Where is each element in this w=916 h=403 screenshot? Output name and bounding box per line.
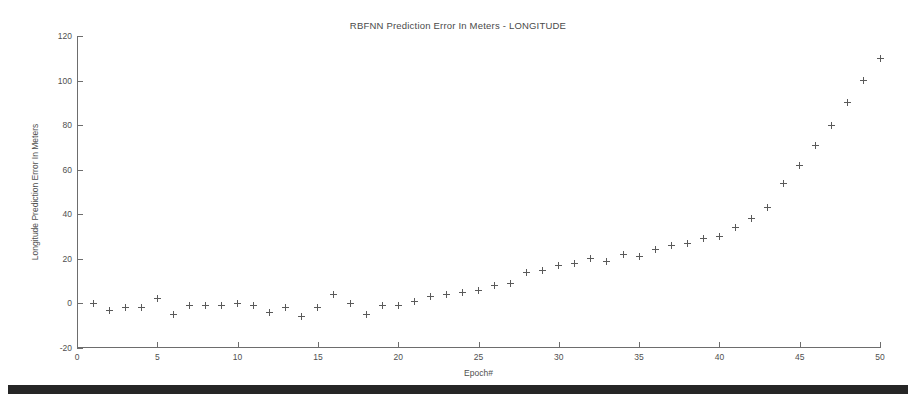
x-tick-mark [559, 342, 560, 348]
y-tick-label: 0 [67, 298, 72, 308]
x-tick-label: 50 [875, 352, 884, 362]
x-tick-mark [479, 342, 480, 348]
y-tick-mark [77, 259, 83, 260]
y-axis-label: Longitude Prediction Error In Meters [28, 36, 42, 348]
x-tick-mark [639, 342, 640, 348]
y-tick-label: 20 [63, 254, 72, 264]
x-tick-label: 40 [715, 352, 724, 362]
y-tick-mark [77, 348, 83, 349]
y-tick-mark [77, 125, 83, 126]
x-tick-mark [318, 342, 319, 348]
chart-title: RBFNN Prediction Error In Meters - LONGI… [0, 20, 916, 31]
y-tick-mark [77, 214, 83, 215]
y-tick-label: 120 [58, 31, 72, 41]
x-tick-mark [157, 342, 158, 348]
y-tick-label: 40 [63, 209, 72, 219]
x-tick-mark [77, 342, 78, 348]
screenshot-page: RBFNN Prediction Error In Meters - LONGI… [0, 0, 916, 403]
x-tick-label: 10 [233, 352, 242, 362]
x-tick-label: 25 [474, 352, 483, 362]
y-tick-mark [77, 81, 83, 82]
x-tick-label: 45 [795, 352, 804, 362]
y-tick-label: 60 [63, 165, 72, 175]
y-tick-mark [77, 303, 83, 304]
x-tick-label: 15 [313, 352, 322, 362]
y-tick-mark [77, 170, 83, 171]
x-tick-mark [398, 342, 399, 348]
y-tick-label: -20 [60, 343, 72, 353]
y-tick-mark [77, 36, 83, 37]
scan-artifact-bar [8, 385, 908, 394]
x-tick-mark [719, 342, 720, 348]
x-tick-mark [800, 342, 801, 348]
x-tick-label: 0 [75, 352, 80, 362]
x-tick-mark [880, 342, 881, 348]
chart-figure: RBFNN Prediction Error In Meters - LONGI… [0, 0, 916, 375]
x-tick-label: 5 [155, 352, 160, 362]
y-axis-label-text: Longitude Prediction Error In Meters [30, 124, 40, 261]
x-tick-label: 30 [554, 352, 563, 362]
axes-frame [77, 36, 880, 348]
x-tick-label: 35 [634, 352, 643, 362]
x-tick-label: 20 [393, 352, 402, 362]
x-axis-label: Epoch# [77, 368, 880, 378]
y-tick-label: 100 [58, 76, 72, 86]
plot-area: -20020406080100120 05101520253035404550 [77, 36, 880, 348]
x-tick-mark [238, 342, 239, 348]
y-tick-label: 80 [63, 120, 72, 130]
